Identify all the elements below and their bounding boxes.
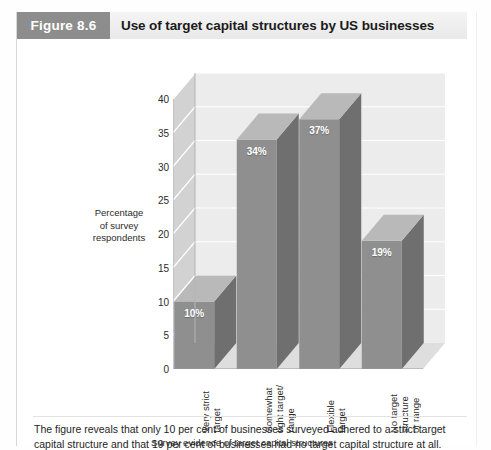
bar-value-label: 19% [362, 247, 402, 258]
bar-value-label: 34% [237, 146, 277, 157]
figure-number-tag: Figure 8.6 [17, 12, 110, 39]
figure-page: Figure 8.6 Use of target capital structu… [0, 0, 491, 450]
y-axis-tick-labels: 4035302520151050 [143, 39, 169, 369]
y-tick-label: 0 [143, 364, 169, 375]
y-tick-label: 10 [143, 296, 169, 307]
running-head [16, 0, 236, 9]
y-tick-label: 25 [143, 195, 169, 206]
figure-caption: The figure reveals that only 10 per cent… [34, 422, 458, 450]
figure-title: Use of target capital structures by US b… [121, 12, 434, 39]
figure-header: Figure 8.6 Use of target capital structu… [17, 12, 467, 39]
figure-box: Figure 8.6 Use of target capital structu… [16, 12, 477, 446]
caption-separator [33, 416, 467, 417]
bar-value-label: 37% [299, 125, 339, 136]
chart-3d-scene [173, 73, 445, 369]
bar-front-face [299, 119, 339, 369]
y-tick-label: 5 [143, 330, 169, 341]
bar-value-label: 10% [174, 308, 214, 319]
y-tick-label: 30 [143, 161, 169, 172]
bar-front-face [362, 241, 402, 369]
bar-side-face [402, 215, 424, 369]
bar-side-face [277, 114, 299, 370]
chart-plot-area: Percentage of survey respondents 4035302… [17, 39, 476, 417]
chart-3d-body: 10%34%37%19% [173, 73, 445, 369]
bar-side-face [339, 93, 361, 369]
y-tick-label: 20 [143, 229, 169, 240]
bar [362, 215, 424, 369]
y-tick-label: 35 [143, 127, 169, 138]
bar-front-face [237, 140, 277, 370]
y-tick-label: 15 [143, 262, 169, 273]
y-tick-label: 40 [143, 94, 169, 105]
